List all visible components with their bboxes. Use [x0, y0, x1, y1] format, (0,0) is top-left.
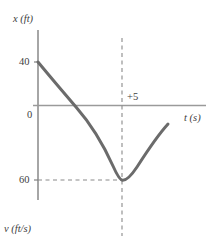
- y-tick-label-60: 60: [19, 175, 30, 186]
- position-curve: [38, 62, 168, 180]
- x-axis-title: t (s): [184, 113, 201, 124]
- x-tick-label-plus5: +5: [127, 92, 138, 103]
- velocity-panel-axis-title: v (ft/s): [4, 224, 31, 235]
- origin-tick-label-0: 0: [27, 110, 32, 121]
- position-time-graph-figure: x (ft) t (s) 40 0 60 +5 v (ft/s): [0, 0, 215, 236]
- plot-canvas: [0, 0, 215, 236]
- y-tick-label-40: 40: [19, 57, 30, 68]
- y-axis-title: x (ft): [13, 14, 33, 25]
